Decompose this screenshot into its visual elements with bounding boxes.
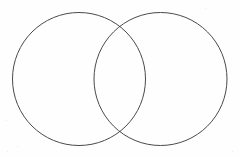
venn-diagram-figure <box>0 0 240 158</box>
venn-circle-right[interactable] <box>94 13 227 146</box>
venn-diagram-canvas <box>0 0 240 158</box>
